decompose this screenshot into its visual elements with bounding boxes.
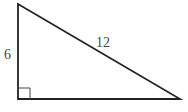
right-angle-marker [18, 88, 30, 99]
triangle-diagram: 6 12 [0, 0, 188, 112]
right-triangle [18, 4, 180, 99]
vertical-leg-label: 6 [4, 47, 11, 62]
hypotenuse-label: 12 [96, 35, 110, 50]
